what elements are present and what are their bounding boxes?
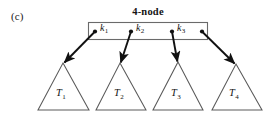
subtree-label-t1-text: T [56, 87, 62, 98]
tree-diagram [0, 0, 277, 121]
pointer-to-t1 [65, 32, 96, 63]
subtree-label-t2-text: T [114, 87, 120, 98]
subtree-triangle-t3 [153, 62, 203, 110]
key-label-k1-sub: 1 [105, 27, 109, 35]
subtree-label-t4-text: T [229, 87, 235, 98]
subtree-label-t3-sub: 3 [177, 93, 181, 101]
subtree-label-t4-sub: 4 [235, 93, 239, 101]
pointer-to-t2 [121, 32, 131, 63]
subtree-label-t2: T2 [114, 87, 123, 98]
key-label-k3: k3 [177, 22, 185, 33]
key-label-k2-text: k [136, 22, 140, 33]
key-label-k3-sub: 3 [182, 27, 186, 35]
figure-container: (c) 4-node k1 [0, 0, 277, 121]
child-pointer-arrows [65, 32, 235, 64]
subtree-triangles [38, 62, 262, 110]
subtree-label-t4: T4 [229, 87, 238, 98]
key-label-k1: k1 [100, 22, 108, 33]
subtree-label-t3: T3 [171, 87, 180, 98]
key-label-k2: k2 [136, 22, 144, 33]
key-label-k2-sub: 2 [141, 27, 145, 35]
subtree-label-t1: T1 [56, 87, 65, 98]
subtree-label-t1-sub: 1 [62, 93, 66, 101]
key-label-k1-text: k [100, 22, 104, 33]
key-label-k3-text: k [177, 22, 181, 33]
subtree-label-t3-text: T [171, 87, 177, 98]
pointer-to-t4 [202, 32, 235, 64]
subtree-label-t2-sub: 2 [120, 93, 124, 101]
pointer-to-t3 [172, 32, 177, 62]
